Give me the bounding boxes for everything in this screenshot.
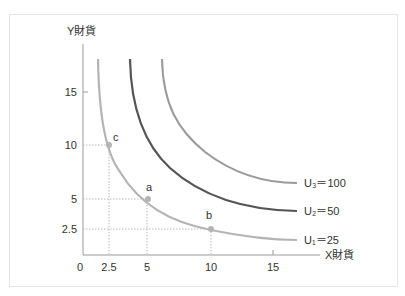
y-tick-label-10: 10 <box>65 139 77 151</box>
x-tick-label-10: 10 <box>205 261 217 273</box>
point-a <box>145 196 151 202</box>
curve-u3 <box>162 59 297 183</box>
y-tick-label-2-5: 2.5 <box>62 223 77 235</box>
indifference-curve-chart: c a b U₃＝100 U₂＝50 U₁＝25 Y財貨 X財貨 15 10 5… <box>0 0 405 296</box>
point-b <box>208 226 214 232</box>
origin-label: 0 <box>77 261 83 273</box>
x-axis-title: X財貨 <box>325 248 354 261</box>
curve-label-u2: U₂＝50 <box>304 205 339 217</box>
curve-u2 <box>130 59 297 211</box>
x-tick-label-15: 15 <box>267 261 279 273</box>
curve-label-u3: U₃＝100 <box>304 177 346 189</box>
curve-u1 <box>98 59 297 240</box>
point-c <box>106 142 112 148</box>
curve-label-u1: U₁＝25 <box>304 234 339 246</box>
point-label-a: a <box>146 181 153 193</box>
y-axis-title: Y財貨 <box>67 24 96 37</box>
x-tick-label-2-5: 2.5 <box>101 261 116 273</box>
y-tick-label-5: 5 <box>71 193 77 205</box>
x-tick-label-5: 5 <box>144 261 150 273</box>
y-tick-label-15: 15 <box>65 86 77 98</box>
point-label-b: b <box>206 209 212 221</box>
point-label-c: c <box>113 131 119 143</box>
